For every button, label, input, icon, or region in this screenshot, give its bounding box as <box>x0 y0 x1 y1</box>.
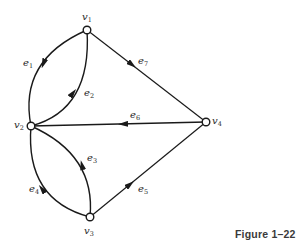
edge-e1 <box>29 30 87 126</box>
graph-diagram <box>0 0 302 247</box>
label-e1-sub: 1 <box>29 62 33 70</box>
figure-caption: Figure 1–22 <box>235 228 296 240</box>
label-e7-sub: 7 <box>144 60 148 68</box>
vertex-v4 <box>202 118 210 126</box>
label-e5: e5 <box>138 184 148 196</box>
label-v1: v1 <box>82 12 92 24</box>
edge-e5 <box>90 122 206 217</box>
edge-e4 <box>30 126 90 217</box>
edge-e6 <box>31 122 206 126</box>
label-e5-sub: 5 <box>144 188 148 196</box>
label-e6-sub: 6 <box>136 114 140 122</box>
vertex-v3 <box>86 213 94 221</box>
edge-e2 <box>31 30 87 126</box>
label-v4-sub: 4 <box>218 120 222 128</box>
label-v2: v2 <box>14 120 24 132</box>
label-e1: e1 <box>23 58 33 70</box>
label-v3-sub: 3 <box>90 230 94 238</box>
label-e4: e4 <box>29 184 39 196</box>
label-e3-sub: 3 <box>93 157 97 165</box>
label-v2-sub: 2 <box>20 124 24 132</box>
label-v3: v3 <box>84 226 94 238</box>
label-e4-sub: 4 <box>35 188 39 196</box>
label-e2-sub: 2 <box>90 92 94 100</box>
label-e3: e3 <box>87 153 97 165</box>
label-v1-sub: 1 <box>88 16 92 24</box>
label-v4: v4 <box>212 116 222 128</box>
vertex-v2 <box>27 122 35 130</box>
label-e7: e7 <box>138 56 148 68</box>
label-e2: e2 <box>84 88 94 100</box>
vertex-v1 <box>83 26 91 34</box>
edge-e7 <box>87 30 206 122</box>
label-e6: e6 <box>130 110 140 122</box>
